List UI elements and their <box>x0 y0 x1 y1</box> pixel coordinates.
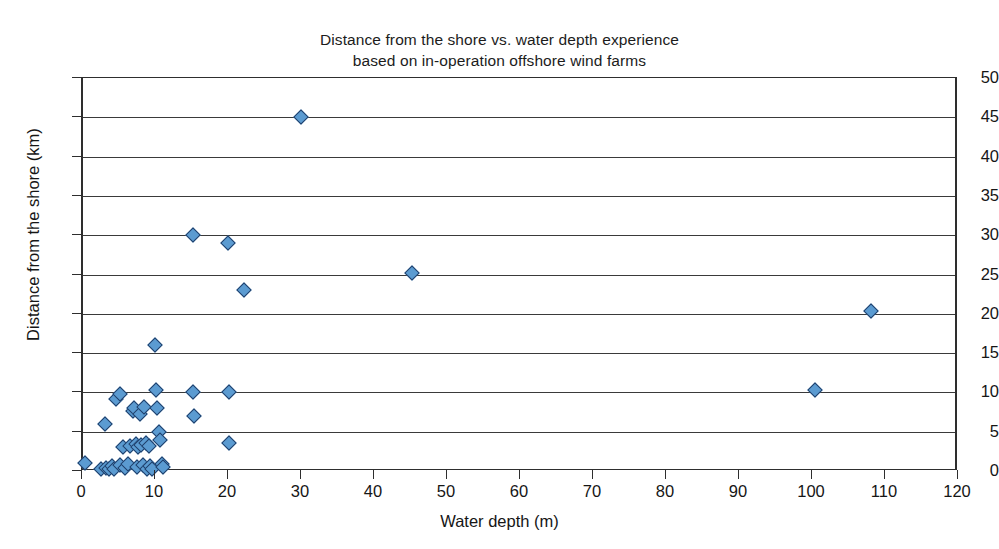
x-axis-tick-mark <box>227 470 228 479</box>
y-axis-tick-mark <box>72 313 81 314</box>
x-axis-tick-label: 70 <box>583 482 601 501</box>
y-axis-tick-label: 0 <box>937 461 999 480</box>
data-point <box>220 235 236 251</box>
y-axis-tick-label: 35 <box>937 185 999 204</box>
x-axis-tick-label: 0 <box>76 482 85 501</box>
gridline <box>83 117 955 118</box>
x-axis-tick-label: 20 <box>218 482 236 501</box>
y-axis-tick-mark <box>72 234 81 235</box>
y-axis-tick-mark <box>72 431 81 432</box>
y-axis-tick-mark <box>72 116 81 117</box>
y-axis-tick-mark <box>72 195 81 196</box>
x-axis-label: Water depth (m) <box>0 512 999 531</box>
y-axis-tick-mark <box>72 391 81 392</box>
data-point <box>221 436 237 452</box>
gridline <box>83 392 955 393</box>
x-axis-tick-label: 50 <box>437 482 455 501</box>
data-point <box>236 282 252 298</box>
data-point <box>221 385 237 401</box>
y-axis-tick-label: 25 <box>937 264 999 283</box>
data-point <box>97 416 113 432</box>
data-point <box>404 265 420 281</box>
data-point <box>186 408 202 424</box>
data-point <box>293 110 309 126</box>
x-axis-tick-label: 60 <box>510 482 528 501</box>
y-axis-tick-label: 40 <box>937 146 999 165</box>
x-axis-tick-mark <box>81 470 82 479</box>
x-axis-tick-mark <box>300 470 301 479</box>
y-axis-tick-mark <box>72 77 81 78</box>
y-axis-label: Distance from the shore (km) <box>24 35 43 435</box>
y-axis-tick-label: 10 <box>937 382 999 401</box>
chart-title-line-1: Distance from the shore vs. water depth … <box>320 31 679 48</box>
x-axis-tick-mark <box>373 470 374 479</box>
y-axis-tick-label: 50 <box>937 68 999 87</box>
data-point <box>147 337 163 353</box>
data-point <box>150 400 166 416</box>
x-axis-tick-mark <box>154 470 155 479</box>
gridline <box>83 196 955 197</box>
x-axis-tick-label: 80 <box>656 482 674 501</box>
x-axis-tick-label: 120 <box>943 482 971 501</box>
x-axis-tick-mark <box>446 470 447 479</box>
x-axis-tick-mark <box>811 470 812 479</box>
x-axis-tick-label: 110 <box>871 482 897 501</box>
x-axis-tick-mark <box>738 470 739 479</box>
x-axis-tick-mark <box>884 470 885 479</box>
plot-area <box>81 77 957 470</box>
x-axis-tick-label: 10 <box>145 482 163 501</box>
x-axis-tick-label: 100 <box>797 482 825 501</box>
data-point <box>807 382 823 398</box>
chart-title-line-2: based on in-operation offshore wind farm… <box>0 50 999 71</box>
gridline <box>83 275 955 276</box>
gridline <box>83 235 955 236</box>
x-axis-tick-mark <box>957 470 958 479</box>
y-axis-tick-mark <box>72 156 81 157</box>
gridline <box>83 432 955 433</box>
gridline <box>83 157 955 158</box>
y-axis-tick-label: 5 <box>937 421 999 440</box>
x-axis-tick-label: 90 <box>729 482 747 501</box>
y-axis-tick-mark <box>72 352 81 353</box>
y-axis-tick-label: 45 <box>937 107 999 126</box>
x-axis-tick-label: 40 <box>364 482 382 501</box>
y-axis-tick-mark <box>72 470 81 471</box>
x-axis-tick-label: 30 <box>291 482 309 501</box>
x-axis-tick-mark <box>665 470 666 479</box>
y-axis-tick-label: 20 <box>937 303 999 322</box>
y-axis-tick-label: 15 <box>937 343 999 362</box>
scatter-chart-figure: Distance from the shore vs. water depth … <box>0 0 999 549</box>
y-axis-tick-mark <box>72 274 81 275</box>
data-point <box>77 455 93 471</box>
x-axis-tick-mark <box>592 470 593 479</box>
data-point <box>148 382 164 398</box>
x-axis-tick-mark <box>519 470 520 479</box>
data-point <box>185 227 201 243</box>
data-point <box>185 385 201 401</box>
y-axis-tick-label: 30 <box>937 225 999 244</box>
gridline <box>83 353 955 354</box>
gridline <box>83 314 955 315</box>
data-point <box>864 304 880 320</box>
